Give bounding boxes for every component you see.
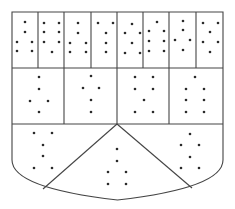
dot-marker bbox=[209, 51, 212, 54]
dot-marker bbox=[163, 50, 166, 53]
dot-marker bbox=[51, 132, 54, 135]
dot-marker bbox=[124, 32, 127, 35]
shield-figure bbox=[0, 0, 235, 209]
dot-marker bbox=[43, 41, 46, 44]
section-top-7 bbox=[174, 20, 192, 52]
dot-marker bbox=[131, 42, 134, 45]
dot-marker bbox=[143, 99, 146, 102]
dot-marker bbox=[33, 132, 36, 135]
dot-marker bbox=[38, 111, 41, 114]
dot-marker bbox=[209, 31, 212, 34]
diagonal-divider bbox=[117, 124, 192, 188]
section-middle-2 bbox=[82, 75, 101, 114]
section-dividers bbox=[12, 12, 223, 189]
dot-marker bbox=[163, 40, 166, 43]
dot-marker bbox=[31, 50, 34, 53]
dot-marker bbox=[182, 49, 185, 52]
dot-marker bbox=[203, 99, 206, 102]
section-bottom-right bbox=[180, 133, 201, 170]
dot-marker bbox=[33, 167, 36, 170]
dot-marker bbox=[134, 111, 137, 114]
dot-marker bbox=[152, 88, 155, 91]
dot-marker bbox=[105, 51, 108, 54]
dot-marker bbox=[43, 22, 46, 25]
dot-marker bbox=[58, 41, 61, 44]
dot-marker bbox=[69, 51, 72, 54]
dot-marker bbox=[189, 156, 192, 159]
dot-marker bbox=[198, 167, 201, 170]
dot-marker bbox=[107, 171, 110, 174]
dot-marker bbox=[51, 51, 54, 54]
dot-marker bbox=[131, 23, 134, 26]
section-bottom-center bbox=[107, 148, 128, 186]
dot-marker bbox=[203, 88, 206, 91]
section-top-2 bbox=[43, 22, 61, 54]
dot-marker bbox=[116, 148, 119, 151]
dot-marker bbox=[125, 171, 128, 174]
dot-marker bbox=[16, 41, 19, 44]
dot-marker bbox=[85, 51, 88, 54]
dot-marker bbox=[58, 31, 61, 34]
dot-marker bbox=[105, 42, 108, 45]
dot-marker bbox=[90, 111, 93, 114]
dot-marker bbox=[202, 22, 205, 25]
section-top-4 bbox=[97, 22, 115, 54]
section-top-6 bbox=[148, 21, 166, 53]
dot-marker bbox=[182, 29, 185, 32]
dot-marker bbox=[51, 167, 54, 170]
section-top-3 bbox=[69, 22, 88, 54]
dot-marker bbox=[148, 40, 151, 43]
dot-marker bbox=[217, 41, 220, 44]
dot-marker bbox=[202, 41, 205, 44]
section-top-8 bbox=[202, 22, 220, 54]
dot-marker bbox=[189, 133, 192, 136]
dot-marker bbox=[139, 52, 142, 55]
dot-marker bbox=[90, 99, 93, 102]
dot-marker bbox=[58, 22, 61, 25]
dot-marker bbox=[98, 87, 101, 90]
dot-marker bbox=[125, 183, 128, 186]
dot-marker bbox=[134, 76, 137, 79]
dot-marker bbox=[42, 144, 45, 147]
dot-marker bbox=[38, 76, 41, 79]
dot-marker bbox=[182, 20, 185, 23]
dot-marker bbox=[77, 22, 80, 25]
dot-marker bbox=[16, 50, 19, 53]
section-middle-3 bbox=[134, 76, 155, 114]
dot-marker bbox=[38, 88, 41, 91]
dot-marker bbox=[139, 32, 142, 35]
dot-marker bbox=[189, 39, 192, 42]
dot-marker bbox=[112, 22, 115, 25]
dot-marker bbox=[185, 111, 188, 114]
section-middle-4 bbox=[185, 76, 206, 114]
dot-marker bbox=[82, 87, 85, 90]
dot-marker bbox=[77, 32, 80, 35]
dot-marker bbox=[180, 167, 183, 170]
section-top-5 bbox=[124, 23, 142, 55]
dot-marker bbox=[152, 111, 155, 114]
dot-marker bbox=[116, 160, 119, 163]
dot-marker bbox=[198, 144, 201, 147]
dot-marker bbox=[134, 88, 137, 91]
dot-marker bbox=[69, 42, 72, 45]
dot-marker bbox=[29, 100, 32, 103]
dot-marker bbox=[152, 76, 155, 79]
dot-marker bbox=[24, 31, 27, 34]
dot-marker bbox=[194, 76, 197, 79]
section-middle-1 bbox=[29, 76, 50, 114]
dot-marker bbox=[203, 111, 206, 114]
shield-diagram bbox=[0, 0, 235, 209]
dot-marker bbox=[47, 100, 50, 103]
dot-marker bbox=[43, 31, 46, 34]
dot-marker bbox=[185, 99, 188, 102]
dot-marker bbox=[97, 22, 100, 25]
dot-marker bbox=[217, 22, 220, 25]
dot-marker bbox=[124, 52, 127, 55]
dot-marker bbox=[31, 41, 34, 44]
dot-marker bbox=[156, 21, 159, 24]
dot-marker bbox=[90, 75, 93, 78]
diagonal-divider bbox=[43, 124, 117, 189]
section-bottom-left bbox=[33, 132, 54, 170]
dot-marker bbox=[148, 30, 151, 33]
dot-marker bbox=[163, 30, 166, 33]
